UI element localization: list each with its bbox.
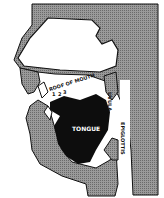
anatomy-drawing	[0, 0, 164, 198]
upper-teeth	[38, 82, 48, 98]
uvula-label: UVULA	[107, 92, 112, 111]
epiglottis	[104, 138, 118, 160]
upper-lip	[20, 68, 40, 94]
epiglottis-label: EPIGLOTTIS	[120, 122, 125, 155]
number-3-label: 3	[63, 90, 66, 95]
mouth-diagram: ROOF OF MOUTH 1 2 3 TONGUE UVULA EPIGLOT…	[0, 0, 164, 198]
number-2-label: 2	[58, 92, 61, 97]
number-1-label: 1	[52, 92, 55, 97]
tongue-label: TONGUE	[72, 126, 100, 132]
